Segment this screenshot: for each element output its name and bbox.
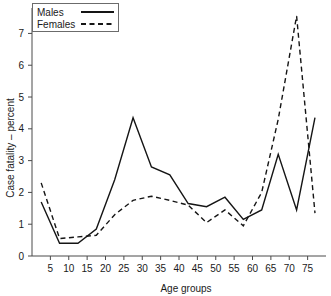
x-tick-label: 20 bbox=[100, 263, 112, 274]
chart-svg: 01234567 51015202530354045505560657075 C… bbox=[0, 0, 331, 296]
series-line-females bbox=[41, 16, 315, 239]
chart-legend: Males Females bbox=[33, 4, 119, 32]
x-tick-label: 70 bbox=[284, 263, 296, 274]
y-tick-label: 5 bbox=[18, 92, 24, 103]
x-tick-label: 75 bbox=[302, 263, 314, 274]
legend-label-females: Females bbox=[37, 19, 75, 30]
y-axis-ticks bbox=[28, 33, 32, 256]
case-fatality-line-chart: 01234567 51015202530354045505560657075 C… bbox=[0, 0, 331, 296]
y-tick-label: 0 bbox=[18, 251, 24, 262]
x-tick-label: 35 bbox=[155, 263, 167, 274]
legend-label-males: Males bbox=[37, 7, 64, 18]
x-tick-label: 50 bbox=[210, 263, 222, 274]
x-axis-tick-labels: 51015202530354045505560657075 bbox=[48, 263, 314, 274]
y-tick-label: 6 bbox=[18, 60, 24, 71]
y-tick-label: 2 bbox=[18, 187, 24, 198]
axis-group: 01234567 51015202530354045505560657075 bbox=[18, 8, 326, 274]
x-axis-ticks bbox=[50, 256, 307, 260]
x-tick-label: 5 bbox=[48, 263, 54, 274]
y-tick-label: 7 bbox=[18, 28, 24, 39]
x-tick-label: 45 bbox=[192, 263, 204, 274]
y-axis-title: Case fatality – percent bbox=[5, 98, 16, 198]
y-tick-label: 4 bbox=[18, 123, 24, 134]
x-axis-title: Age groups bbox=[160, 283, 211, 294]
y-tick-label: 3 bbox=[18, 155, 24, 166]
y-axis-tick-labels: 01234567 bbox=[18, 28, 24, 262]
y-tick-label: 1 bbox=[18, 219, 24, 230]
x-tick-label: 10 bbox=[63, 263, 75, 274]
x-tick-label: 60 bbox=[247, 263, 259, 274]
x-tick-label: 65 bbox=[265, 263, 277, 274]
x-tick-label: 40 bbox=[173, 263, 185, 274]
x-tick-label: 15 bbox=[82, 263, 94, 274]
series-group bbox=[41, 16, 315, 243]
x-tick-label: 25 bbox=[118, 263, 130, 274]
x-tick-label: 55 bbox=[229, 263, 241, 274]
x-tick-label: 30 bbox=[137, 263, 149, 274]
